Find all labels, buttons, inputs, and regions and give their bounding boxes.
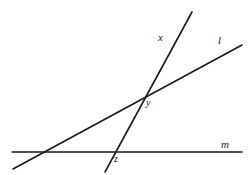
line-x-label: x [158, 32, 163, 43]
line-m-label: m [221, 139, 229, 150]
line-l [13, 45, 242, 169]
line-l-label: l [218, 35, 221, 46]
geometry-svg-canvas [0, 0, 252, 175]
line-x [105, 12, 192, 172]
point-z-label: z [114, 154, 118, 164]
point-y-label: y [146, 98, 150, 108]
geometry-figure: x l m y z [0, 0, 252, 175]
